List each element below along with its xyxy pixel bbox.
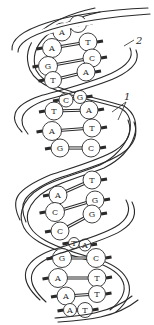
base-right: G xyxy=(83,205,101,223)
base-letter: A xyxy=(82,68,89,77)
base-right: C xyxy=(82,139,100,157)
base-left: G xyxy=(53,249,72,268)
base-right: T xyxy=(89,286,106,303)
base-letter: A xyxy=(54,274,61,283)
base-letter: C xyxy=(52,208,58,217)
base-left: A xyxy=(64,304,77,317)
base-left: A xyxy=(43,39,62,58)
backbone-link xyxy=(87,96,93,97)
base-left: A xyxy=(49,269,68,288)
base-letter: T xyxy=(51,107,57,116)
backbone-link xyxy=(45,231,51,232)
backbone-link xyxy=(43,195,49,196)
base-right: T xyxy=(79,33,97,51)
base-letter: C xyxy=(89,54,95,63)
base-right: T xyxy=(83,119,101,137)
base-left: A xyxy=(57,287,75,305)
backbone-link xyxy=(40,212,46,213)
base-letter: C xyxy=(88,144,94,153)
base-right: T xyxy=(83,171,101,189)
base-letter: G xyxy=(89,210,95,219)
base-letter: A xyxy=(48,44,55,53)
base-letter: A xyxy=(66,306,73,315)
backbone-link xyxy=(91,244,97,245)
base-left: T xyxy=(45,72,62,89)
base-left: A xyxy=(43,122,62,141)
base-letter: C xyxy=(63,96,69,105)
backbone-strand-back xyxy=(21,8,136,312)
base-letter: T xyxy=(89,124,95,133)
base-left: C xyxy=(46,203,65,222)
backbone-link xyxy=(101,213,107,214)
base-right: G xyxy=(74,91,87,104)
backbone-link xyxy=(100,147,106,148)
base-letter: G xyxy=(77,93,83,102)
base-letter: C xyxy=(57,227,63,236)
backbone-link xyxy=(98,109,104,110)
backbone-link xyxy=(93,309,99,310)
backbone-link xyxy=(106,277,112,278)
base-letter: A xyxy=(54,191,61,200)
base-letter: T xyxy=(89,176,95,185)
backbone-link xyxy=(37,48,43,49)
base-letter: T xyxy=(50,76,56,85)
base-letter: T xyxy=(94,274,100,283)
backbone-link xyxy=(39,111,45,112)
label-1: 1 xyxy=(124,91,130,102)
backbone-strand-front xyxy=(12,8,150,322)
base-letter: C xyxy=(93,254,99,263)
base-left: C xyxy=(51,222,69,240)
backbone-link xyxy=(43,278,49,279)
backbone-link xyxy=(104,199,110,200)
backbone-link xyxy=(101,179,107,180)
backbone-link xyxy=(33,66,39,67)
backbone-link xyxy=(39,80,45,81)
base-letter: G xyxy=(92,196,98,205)
backbone-link xyxy=(106,257,112,258)
base-right: A xyxy=(77,63,95,81)
backbone-link xyxy=(101,57,107,58)
backbone-link xyxy=(37,131,43,132)
base-right: C xyxy=(87,249,106,268)
base-letter: T xyxy=(82,306,88,315)
base-letter: G xyxy=(45,62,51,71)
backbone-link xyxy=(53,100,59,101)
base-letter: A xyxy=(85,106,92,115)
backbone-link xyxy=(58,310,64,311)
base-letter: G xyxy=(59,254,65,263)
base-letter: T xyxy=(85,38,91,47)
label-backbone: 2 xyxy=(124,35,142,46)
backbone-link xyxy=(97,41,103,42)
backbone-link xyxy=(45,148,51,149)
backbone-link xyxy=(95,71,101,72)
label-2: 2 xyxy=(135,35,142,46)
backbone-link xyxy=(63,243,69,244)
base-letter: A xyxy=(48,127,55,136)
base-left: G xyxy=(51,139,69,157)
base-right: T xyxy=(88,269,106,287)
backbone-link xyxy=(51,296,57,297)
base-letter: T xyxy=(94,290,100,299)
base-letter: A xyxy=(62,292,69,301)
base-right: A xyxy=(80,101,98,119)
base-letter: G xyxy=(57,144,63,153)
base-left: T xyxy=(45,102,63,120)
backbone-link xyxy=(101,127,107,128)
base-left: A xyxy=(49,186,67,204)
dna-helix-diagram: ATATGCTACGTAATGCATCGCGTAGCATATAT 2 1 xyxy=(0,0,154,325)
backbone-link xyxy=(106,293,112,294)
